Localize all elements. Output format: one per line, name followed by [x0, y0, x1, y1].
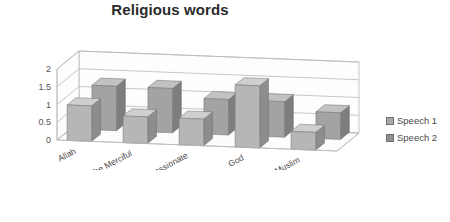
legend-item-speech-2[interactable]: Speech 2	[386, 129, 450, 146]
legend-label-speech-1: Speech 1	[397, 115, 437, 126]
chart-legend: Speech 1 Speech 2	[386, 112, 450, 146]
bar-the-compassionate-speech-1[interactable]	[179, 111, 212, 146]
y-axis-tick-label: 1	[46, 100, 51, 110]
x-axis-category-label: Allah	[56, 146, 78, 164]
x-axis-category-label: Muslim	[273, 155, 301, 170]
chart-title: Religious words	[0, 1, 340, 18]
bar-allah-speech-1[interactable]	[67, 98, 100, 142]
legend-item-speech-1[interactable]: Speech 1	[386, 112, 450, 129]
y-axis-tick-label: 1.5	[38, 82, 51, 92]
x-axis-category-label: The Merciful	[87, 148, 133, 170]
y-axis-tick-label: 2	[46, 64, 51, 74]
y-axis-tick-label: 0	[46, 135, 51, 145]
bar-the-merciful-speech-1[interactable]	[123, 109, 156, 144]
bar-muslim-speech-1[interactable]	[291, 124, 324, 150]
legend-swatch-speech-1	[386, 117, 394, 125]
legend-swatch-speech-2	[386, 134, 394, 142]
x-axis-category-label: God	[227, 152, 246, 169]
plot-area: 00.511.52AllahThe MercifulThe Compassion…	[0, 20, 380, 170]
chart-container: Religious words 00.511.52AllahThe Mercif…	[0, 0, 450, 222]
legend-label-speech-2: Speech 2	[397, 132, 437, 143]
bar-god-speech-1[interactable]	[235, 78, 268, 148]
plot-svg: 00.511.52AllahThe MercifulThe Compassion…	[0, 20, 380, 170]
y-axis-tick-label: 0.5	[38, 117, 51, 127]
